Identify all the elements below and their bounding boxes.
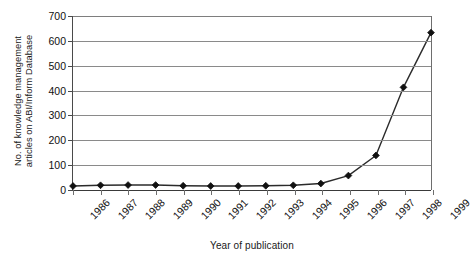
y-axis-title-line-2: articles on ABI/Inform Database [24, 35, 35, 167]
data-point-marker [152, 182, 159, 189]
gridline [73, 16, 431, 17]
plot-area [72, 16, 432, 190]
x-axis-tick-mark [405, 190, 406, 195]
x-axis-tick-label: 1991 [226, 197, 250, 221]
x-axis-tick-mark [184, 190, 185, 195]
data-point-marker [70, 183, 77, 190]
gridline [73, 140, 431, 141]
x-axis-tick-label: 1999 [448, 197, 472, 221]
y-axis-tick-mark [68, 91, 73, 92]
x-axis-tick-mark [350, 190, 351, 195]
gridline [73, 41, 431, 42]
data-point-marker [125, 182, 132, 189]
data-point-marker [180, 182, 187, 189]
x-axis-tick-mark [267, 190, 268, 195]
gridline [73, 66, 431, 67]
y-axis-tick-label: 100 [36, 160, 66, 171]
y-axis-tick-mark [68, 41, 73, 42]
x-axis-tick-label: 1995 [337, 197, 361, 221]
y-axis-tick-label: 0 [36, 185, 66, 196]
x-axis-tick-label: 1992 [254, 197, 278, 221]
x-axis-tick-mark [433, 190, 434, 195]
y-axis-tick-mark [68, 16, 73, 17]
x-axis-tick-mark [295, 190, 296, 195]
y-axis-tick-mark [68, 66, 73, 67]
x-axis-tick-mark [239, 190, 240, 195]
x-axis-title: Year of publication [72, 240, 432, 252]
data-point-marker [207, 183, 214, 190]
x-axis-tick-mark [73, 190, 74, 195]
x-axis-tick-label: 1996 [365, 197, 389, 221]
data-point-marker [97, 182, 104, 189]
x-axis-tick-label: 1997 [392, 197, 416, 221]
x-axis-tick-mark [322, 190, 323, 195]
x-axis-tick-label: 1998 [420, 197, 444, 221]
y-axis-tick-label: 200 [36, 135, 66, 146]
y-axis-tick-label: 500 [36, 60, 66, 71]
y-axis-title-line-1: No. of knowledge management [13, 36, 24, 166]
x-axis-tick-mark [211, 190, 212, 195]
x-axis-tick-label: 1988 [143, 197, 167, 221]
x-axis-tick-label: 1990 [199, 197, 223, 221]
y-axis-tick-label: 400 [36, 85, 66, 96]
gridline [73, 165, 431, 166]
x-axis-tick-mark [128, 190, 129, 195]
data-point-marker [235, 183, 242, 190]
series-line [73, 33, 431, 186]
x-axis-tick-label: 1986 [88, 197, 112, 221]
y-axis-tick-mark [68, 165, 73, 166]
data-series-line [73, 16, 431, 190]
x-axis-tick-label: 1993 [282, 197, 306, 221]
data-point-marker [290, 182, 297, 189]
gridline [73, 115, 431, 116]
x-axis-tick-label: 1989 [171, 197, 195, 221]
x-axis-tick-mark [101, 190, 102, 195]
data-point-marker [262, 182, 269, 189]
x-axis-tick-label: 1987 [116, 197, 140, 221]
y-axis-tick-mark [68, 115, 73, 116]
y-axis-tick-mark [68, 140, 73, 141]
data-point-marker [428, 29, 435, 36]
y-axis-tick-label: 300 [36, 110, 66, 121]
x-axis-tick-label: 1994 [309, 197, 333, 221]
gridline [73, 91, 431, 92]
data-point-marker [317, 180, 324, 187]
x-axis-tick-mark [378, 190, 379, 195]
y-axis-tick-label: 700 [36, 11, 66, 22]
x-axis-tick-mark [156, 190, 157, 195]
y-axis-tick-label: 600 [36, 36, 66, 47]
y-axis-tick-labels: 0100200300400500600700 [36, 0, 66, 263]
